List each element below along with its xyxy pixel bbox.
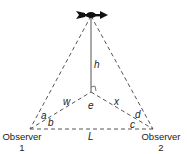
label-e: e [88,101,94,111]
observer-1-label: Observer 1 [0,131,47,153]
sightline-observer2 [91,16,153,129]
label-L: L [88,132,94,142]
observer-2-label: Observer 2 [136,131,186,153]
observer-1-name: Observer [0,131,47,142]
ground-line-x [91,92,153,129]
observer-2-number: 2 [136,142,186,153]
label-w: w [63,97,70,107]
weathervane-icon [76,11,108,19]
label-h: h [94,60,100,70]
label-d: d [135,110,141,120]
right-angle-marker [91,86,96,91]
label-b: b [48,118,54,128]
observer-2-name: Observer [136,131,186,142]
label-c: c [130,120,135,130]
observer-1-number: 1 [0,142,47,153]
ground-line-w [30,92,91,129]
label-a: a [41,111,47,121]
sightline-observer1 [30,16,91,129]
label-x: x [114,97,119,107]
